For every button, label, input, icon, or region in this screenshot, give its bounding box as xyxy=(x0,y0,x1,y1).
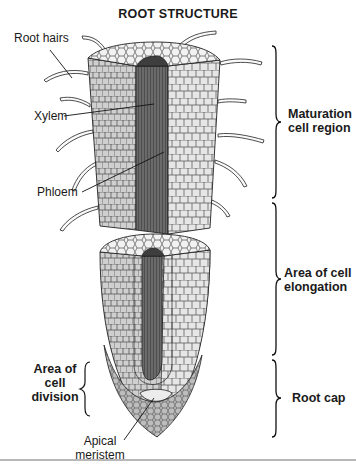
label-maturation-cell-region: Maturation cell region xyxy=(288,107,352,135)
cell-division-brace xyxy=(80,362,90,416)
label-area-of-cell-elongation: Area of cell elongation xyxy=(284,266,351,294)
label-root-cap: Root cap xyxy=(292,391,345,405)
elongation-brace xyxy=(272,203,281,355)
label-line: Apical xyxy=(70,434,130,448)
label-root-hairs: Root hairs xyxy=(14,31,69,45)
label-line: Area of xyxy=(30,362,80,376)
label-line: Maturation xyxy=(288,107,352,121)
label-line: cell xyxy=(30,376,80,390)
label-apical-meristem: Apical meristem xyxy=(70,434,130,462)
label-xylem: Xylem xyxy=(34,109,67,123)
bottom-divider xyxy=(0,459,356,461)
label-line: division xyxy=(30,390,80,404)
label-line: Area of cell xyxy=(284,266,351,280)
label-phloem: Phloem xyxy=(37,185,78,199)
root-cap-brace xyxy=(272,360,281,437)
label-line: elongation xyxy=(284,280,351,294)
maturation-segment xyxy=(88,42,220,234)
label-line: cell region xyxy=(288,121,352,135)
maturation-brace xyxy=(272,46,281,198)
elongation-segment xyxy=(100,234,210,437)
label-area-of-cell-division: Area of cell division xyxy=(30,362,80,404)
